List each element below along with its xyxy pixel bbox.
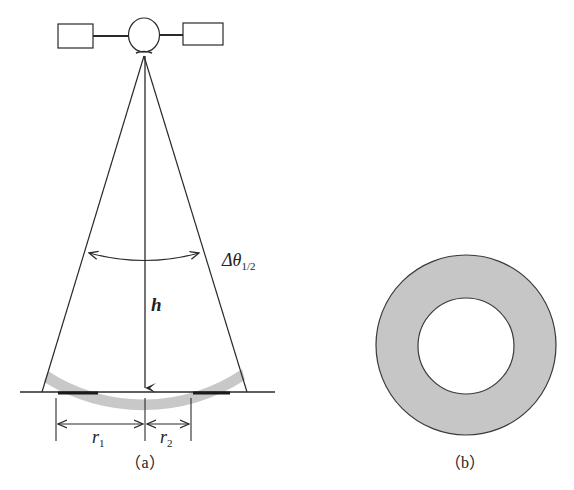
r2-label-subscript: 2 xyxy=(167,437,173,449)
r1-label-subscript: 1 xyxy=(99,437,105,449)
r1-label: r1 xyxy=(92,427,105,449)
cone-left-edge xyxy=(42,56,144,392)
height-label: h xyxy=(151,294,162,315)
beam-angle-arc xyxy=(89,253,199,261)
figure-a: h Δθ1/2 r1 r2 （a） xyxy=(20,18,275,471)
left-solar-panel xyxy=(58,24,93,48)
diagram-svg: h Δθ1/2 r1 r2 （a） （b） xyxy=(0,0,574,490)
annulus-inner xyxy=(418,298,514,394)
satellite-body xyxy=(129,18,160,52)
cone-right-edge xyxy=(144,56,247,392)
diagram-canvas: h Δθ1/2 r1 r2 （a） （b） xyxy=(0,0,574,490)
r2-label: r2 xyxy=(160,427,173,449)
figure-b-caption: （b） xyxy=(445,454,485,471)
figure-b: （b） xyxy=(376,255,556,471)
figure-a-caption: （a） xyxy=(125,454,164,471)
right-solar-panel xyxy=(183,23,223,45)
angle-label: Δθ1/2 xyxy=(221,250,255,272)
satellite-icon xyxy=(58,18,223,53)
antenna-mount xyxy=(136,52,152,54)
angle-label-main: Δθ xyxy=(221,250,242,270)
angle-label-subscript: 1/2 xyxy=(241,260,255,272)
